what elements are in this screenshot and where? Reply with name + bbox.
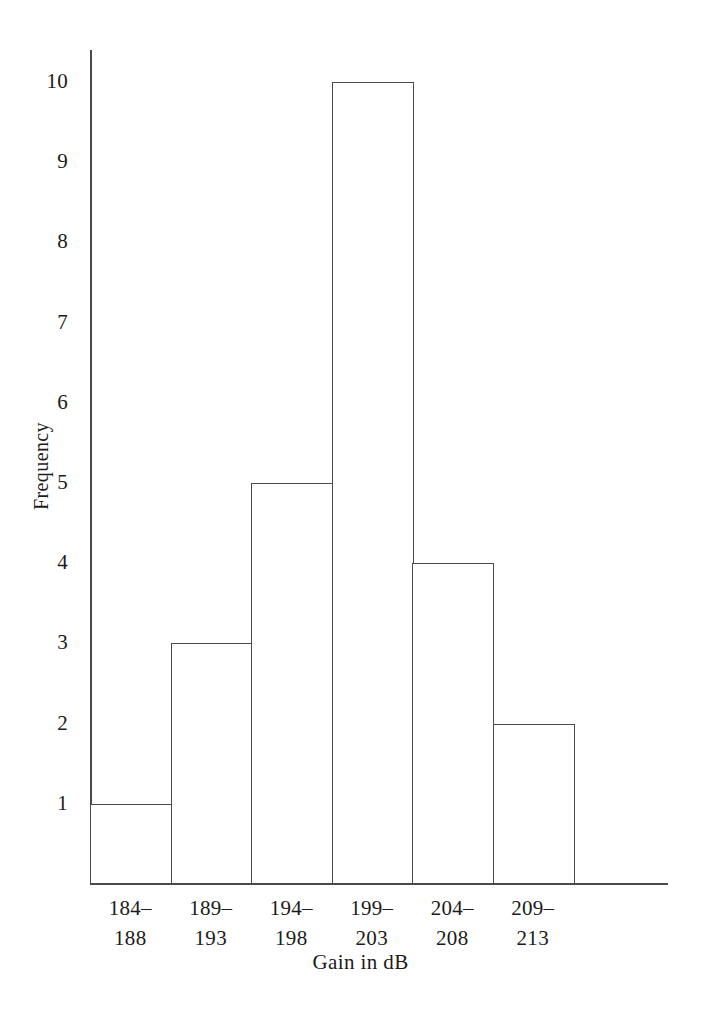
- y-tick-label: 5: [0, 472, 80, 493]
- x-tick-label-line2: 213: [493, 923, 574, 953]
- x-tick-label-line2: 203: [332, 923, 413, 953]
- x-tick-label-line2: 198: [251, 923, 332, 953]
- bar: [412, 563, 494, 884]
- bar: [332, 82, 414, 884]
- y-tick-label: 6: [0, 392, 80, 413]
- x-tick-label-line2: 188: [90, 923, 171, 953]
- x-tick-label: 184–188: [90, 893, 171, 953]
- bar: [171, 643, 253, 884]
- x-tick-label-line2: 208: [412, 923, 493, 953]
- x-tick-label-line1: 184–: [90, 893, 171, 923]
- x-tick-label: 199–203: [332, 893, 413, 953]
- bar: [90, 804, 172, 884]
- y-tick-label: 1: [0, 793, 80, 814]
- y-tick-label: 9: [0, 151, 80, 172]
- x-tick-label-line1: 204–: [412, 893, 493, 923]
- x-tick-label-line1: 209–: [493, 893, 574, 923]
- bar: [251, 483, 333, 884]
- y-tick-label: 3: [0, 632, 80, 653]
- x-tick-label: 204–208: [412, 893, 493, 953]
- x-tick-label: 209–213: [493, 893, 574, 953]
- y-axis-title: Frequency: [30, 422, 53, 510]
- y-tick-label: 7: [0, 312, 80, 333]
- x-tick-label-line1: 199–: [332, 893, 413, 923]
- bar: [493, 724, 575, 884]
- y-tick-label: 10: [0, 71, 80, 92]
- x-axis-title: Gain in dB: [0, 950, 721, 975]
- x-tick-label-line2: 193: [171, 923, 252, 953]
- x-tick-label: 189–193: [171, 893, 252, 953]
- y-tick-label: 2: [0, 713, 80, 734]
- x-tick-label-line1: 189–: [171, 893, 252, 923]
- y-axis-line: [90, 50, 92, 885]
- x-tick-label-line1: 194–: [251, 893, 332, 923]
- x-tick-label: 194–198: [251, 893, 332, 953]
- histogram-chart: Frequency 12345678910 184–188189–193194–…: [0, 0, 721, 1010]
- y-tick-label: 8: [0, 231, 80, 252]
- y-tick-label: 4: [0, 552, 80, 573]
